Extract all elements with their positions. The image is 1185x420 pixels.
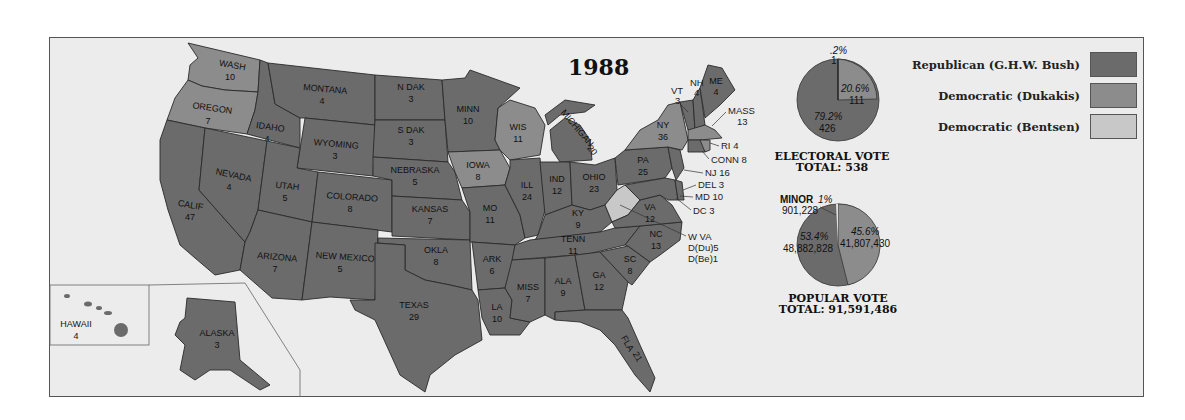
svg-text:1: 1 (831, 55, 837, 66)
inset-alaska: ALASKA 3 (149, 283, 300, 397)
svg-text:10: 10 (463, 116, 473, 126)
state-fla: FLA 21 (555, 310, 655, 392)
inset-hawaii: HAWAII 4 (50, 285, 149, 345)
svg-text:12: 12 (552, 186, 562, 196)
svg-text:VA: VA (644, 202, 655, 212)
svg-text:OHIO: OHIO (582, 172, 605, 182)
svg-text:8: 8 (433, 257, 438, 267)
label-vt-ev: 3 (675, 95, 680, 106)
svg-text:ILL: ILL (521, 180, 534, 190)
label-wva-du: D(Du)5 (688, 242, 719, 253)
svg-text:426: 426 (819, 123, 836, 134)
svg-text:8: 8 (627, 266, 632, 276)
svg-text:11: 11 (485, 215, 494, 225)
state-newmexico: NEW MEXICO 5 (302, 222, 378, 300)
svg-text:MINOR: MINOR (780, 194, 814, 205)
svg-text:4: 4 (226, 182, 231, 192)
svg-text:7: 7 (205, 116, 210, 126)
svg-text:ARK: ARK (483, 254, 502, 264)
svg-text:13: 13 (651, 241, 661, 251)
legend-item-republican: Republican (G.H.W. Bush) (912, 52, 1137, 77)
svg-text:25: 25 (638, 167, 648, 177)
label-conn: CONN 8 (711, 154, 747, 165)
svg-text:GA: GA (592, 270, 605, 280)
svg-text:11: 11 (513, 134, 522, 144)
svg-text:10: 10 (492, 314, 502, 324)
svg-text:LA: LA (491, 302, 502, 312)
svg-text:IOWA: IOWA (466, 160, 490, 170)
svg-text:3: 3 (408, 137, 413, 147)
svg-text:1%: 1% (818, 194, 833, 205)
svg-text:47: 47 (185, 212, 195, 222)
svg-text:10: 10 (225, 72, 235, 82)
svg-text:7: 7 (525, 294, 530, 304)
svg-text:OKLA: OKLA (424, 245, 448, 255)
label-wva-be: D(Be)1 (688, 253, 718, 264)
svg-text:7: 7 (272, 264, 277, 274)
legend-item-dukakis: Democratic (Dukakis) (912, 83, 1137, 108)
svg-text:MO: MO (483, 203, 498, 213)
state-wis: WIS 11 (495, 100, 545, 160)
label-mass-ev: 13 (737, 116, 748, 127)
svg-text:4: 4 (713, 87, 718, 97)
state-kansas: KANSAS 7 (392, 196, 470, 240)
label-ri: RI 4 (721, 140, 738, 151)
svg-text:MINN: MINN (457, 104, 480, 114)
svg-text:5: 5 (282, 193, 287, 203)
svg-text:S DAK: S DAK (397, 125, 424, 135)
state-wyoming: WYOMING 3 (297, 118, 375, 176)
svg-text:TOTAL: 538: TOTAL: 538 (796, 161, 869, 174)
svg-text:901,228: 901,228 (782, 205, 819, 216)
label-dc: DC 3 (693, 205, 715, 216)
svg-text:7: 7 (427, 216, 432, 226)
svg-text:TOTAL: 91,591,486: TOTAL: 91,591,486 (779, 303, 898, 316)
svg-text:ALA: ALA (554, 276, 571, 286)
legend-label: Democratic (Dukakis) (938, 89, 1080, 103)
state-sdak: S DAK 3 (373, 120, 448, 162)
svg-text:48,882,828: 48,882,828 (783, 243, 833, 254)
svg-text:SC: SC (624, 254, 637, 264)
state-ndak: N DAK 3 (375, 75, 445, 120)
svg-text:8: 8 (475, 172, 480, 182)
legend: Republican (G.H.W. Bush) Democratic (Duk… (912, 52, 1137, 145)
legend-label: Republican (G.H.W. Bush) (912, 58, 1080, 72)
svg-text:HAWAII: HAWAII (60, 319, 91, 329)
label-md: MD 10 (695, 191, 723, 202)
svg-text:9: 9 (560, 288, 565, 298)
legend-item-bentsen: Democratic (Bentsen) (912, 114, 1137, 139)
svg-text:4: 4 (319, 96, 324, 106)
svg-text:3: 3 (332, 151, 337, 161)
svg-text:3: 3 (214, 340, 219, 350)
svg-text:9: 9 (575, 220, 580, 230)
label-mass: MASS (728, 105, 755, 116)
svg-text:NEBRASKA: NEBRASKA (390, 165, 439, 175)
svg-text:79.2%: 79.2% (814, 111, 842, 122)
state-colorado: COLORADO 8 (312, 172, 392, 232)
state-miss: MISS 7 (505, 258, 545, 322)
svg-text:5: 5 (412, 177, 417, 187)
svg-text:23: 23 (589, 184, 599, 194)
state-michigan: MICHIGAN 20 (545, 100, 599, 162)
svg-text:TEXAS: TEXAS (399, 300, 429, 310)
svg-text:NC: NC (650, 229, 663, 239)
svg-text:IND: IND (549, 174, 565, 184)
svg-text:24: 24 (522, 192, 532, 202)
map-title: 1988 (568, 54, 629, 80)
svg-text:6: 6 (489, 266, 494, 276)
label-nj: NJ 16 (705, 167, 730, 178)
popular-vote-pie: MINOR 1% 901,228 53.4% 48,882,828 45.6% … (779, 194, 898, 316)
svg-text:111: 111 (849, 95, 865, 106)
label-nh-ev: 4 (694, 87, 699, 98)
state-conn-ri (688, 140, 710, 152)
svg-text:TENN: TENN (561, 234, 586, 244)
electoral-vote-pie: .2% 1 20.6% 111 79.2% 426 ELECTORAL VOTE… (775, 45, 890, 174)
svg-text:4: 4 (73, 331, 78, 341)
svg-text:WIS: WIS (510, 122, 527, 132)
svg-text:29: 29 (409, 312, 419, 322)
svg-text:3: 3 (408, 94, 413, 104)
state-ny: NY 36 (625, 102, 688, 150)
svg-text:41,807,430: 41,807,430 (840, 238, 890, 249)
svg-text:KANSAS: KANSAS (412, 204, 449, 214)
svg-text:12: 12 (594, 282, 604, 292)
svg-text:8: 8 (347, 204, 352, 214)
